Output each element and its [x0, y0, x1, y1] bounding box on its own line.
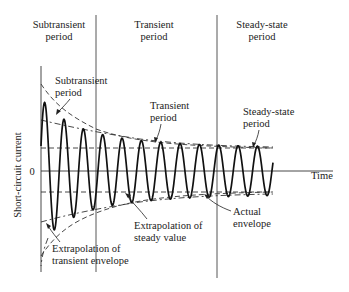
svg-text:Subtransient: Subtransient [33, 19, 86, 30]
svg-text:Transient: Transient [150, 100, 189, 111]
svg-text:period: period [55, 87, 83, 98]
svg-text:Extrapolation of: Extrapolation of [52, 243, 121, 254]
origin-label: 0 [29, 166, 34, 177]
svg-text:steady value: steady value [134, 232, 187, 243]
svg-text:Steady-state: Steady-state [243, 106, 295, 117]
annotation-transient-period: Transient period [150, 100, 189, 143]
transient-envelope-upper [41, 120, 273, 147]
svg-text:Subtransient: Subtransient [55, 75, 108, 86]
svg-text:Actual: Actual [233, 206, 261, 217]
short-circuit-current-diagram: Subtransient period Transient period Ste… [0, 0, 349, 292]
period-header-transient: Transient period [134, 19, 173, 42]
svg-text:period: period [46, 31, 74, 42]
annotation-actual-envelope: Actual envelope [204, 194, 271, 229]
annotation-extrapolation-transient-envelope: Extrapolation of transient envelope [46, 223, 129, 266]
svg-text:period: period [249, 31, 277, 42]
svg-text:period: period [243, 118, 271, 129]
svg-text:Steady-state: Steady-state [236, 19, 288, 30]
svg-text:period: period [141, 31, 169, 42]
transient-extrapolation-tail [41, 238, 48, 266]
annotation-extrapolation-steady-value: Extrapolation of steady value [125, 193, 203, 243]
svg-text:Extrapolation of: Extrapolation of [134, 220, 203, 231]
x-axis-label: Time [311, 170, 333, 181]
svg-text:transient envelope: transient envelope [52, 255, 129, 266]
period-header-subtransient: Subtransient period [33, 19, 86, 42]
period-header-steady-state: Steady-state period [236, 19, 288, 42]
y-axis-label: Short-circuit current [12, 132, 23, 218]
svg-text:Transient: Transient [134, 19, 173, 30]
svg-text:envelope: envelope [233, 218, 271, 229]
svg-text:period: period [150, 112, 178, 123]
annotation-steady-state-period: Steady-state period [243, 106, 295, 148]
